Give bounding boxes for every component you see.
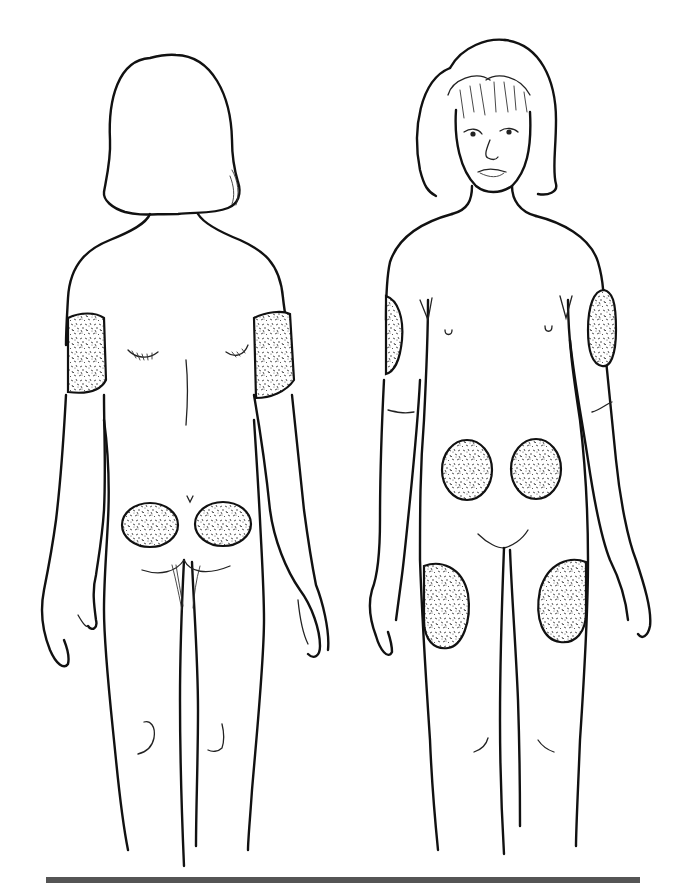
- injection-site-diagram: [0, 0, 686, 889]
- injection-site-back-right-buttock: [195, 502, 251, 546]
- injection-site-back-right-upper-arm: [68, 314, 106, 393]
- injection-site-front-right-upper-arm: [386, 296, 402, 374]
- injection-site-front-left-abdomen: [511, 439, 561, 499]
- injection-site-front-left-thigh: [538, 560, 586, 642]
- injection-site-front-right-abdomen: [442, 440, 492, 500]
- front-view-figure: [370, 40, 650, 854]
- injection-site-back-left-buttock: [122, 503, 178, 547]
- injection-site-back-left-upper-arm: [254, 312, 294, 398]
- back-view-figure: [42, 55, 328, 866]
- injection-site-front-left-upper-arm: [588, 290, 616, 366]
- bottom-rule-divider: [46, 877, 640, 883]
- injection-site-front-right-thigh: [424, 564, 469, 648]
- back-head-hair: [104, 55, 240, 215]
- front-hair: [417, 68, 450, 196]
